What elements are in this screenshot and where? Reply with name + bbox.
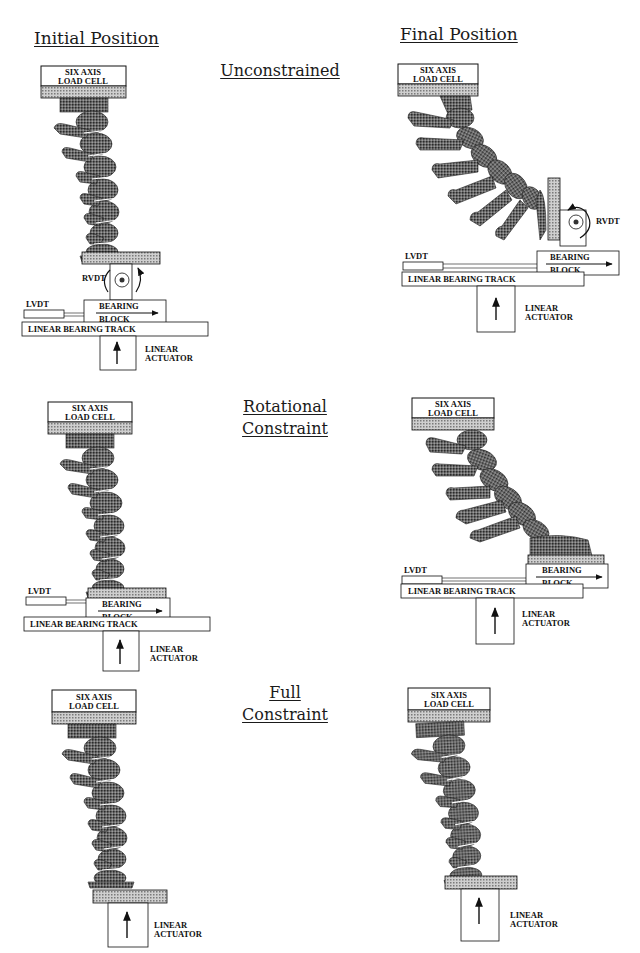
rotational-initial-diagram: SIX AXIS LOAD CELL LVDT BEARING BLOCK LI… xyxy=(24,402,210,671)
svg-text:LOAD CELL: LOAD CELL xyxy=(413,74,463,84)
full-initial-diagram: SIX AXIS LOAD CELL LINEAR ACTUATOR xyxy=(52,690,203,947)
svg-text:BEARING: BEARING xyxy=(99,301,139,311)
svg-text:LINEAR BEARING TRACK: LINEAR BEARING TRACK xyxy=(408,586,516,596)
svg-text:LOAD CELL: LOAD CELL xyxy=(65,412,115,422)
svg-text:LINEAR BEARING TRACK: LINEAR BEARING TRACK xyxy=(408,274,516,284)
svg-text:LVDT: LVDT xyxy=(28,586,51,596)
svg-text:ACTUATOR: ACTUATOR xyxy=(525,312,574,322)
svg-text:ACTUATOR: ACTUATOR xyxy=(154,929,203,939)
svg-text:BEARING: BEARING xyxy=(102,599,142,609)
lvdt-box xyxy=(24,310,64,318)
svg-text:LOAD CELL: LOAD CELL xyxy=(58,76,108,86)
svg-text:LINEAR BEARING TRACK: LINEAR BEARING TRACK xyxy=(30,619,138,629)
svg-text:LOAD CELL: LOAD CELL xyxy=(69,701,119,711)
svg-text:LVDT: LVDT xyxy=(405,251,428,261)
full-final-diagram: SIX AXIS LOAD CELL LINEAR ACTUATOR xyxy=(408,688,559,941)
svg-text:LINEAR BEARING TRACK: LINEAR BEARING TRACK xyxy=(28,324,136,334)
svg-text:LVDT: LVDT xyxy=(26,299,49,309)
svg-text:ACTUATOR: ACTUATOR xyxy=(522,618,571,628)
svg-text:ACTUATOR: ACTUATOR xyxy=(510,919,559,929)
diagram-canvas: SIX AXIS LOAD CELL RVDT LVDT BEARING BLO… xyxy=(0,0,640,953)
svg-text:ACTUATOR: ACTUATOR xyxy=(145,353,194,363)
base-plate xyxy=(82,252,160,264)
svg-text:BEARING: BEARING xyxy=(550,252,590,262)
svg-text:LOAD CELL: LOAD CELL xyxy=(428,408,478,418)
svg-text:LOAD CELL: LOAD CELL xyxy=(424,699,474,709)
rotational-final-diagram: SIX AXIS LOAD CELL LVDT BEARING BLOCK LI… xyxy=(401,398,608,644)
svg-text:RVDT: RVDT xyxy=(596,216,620,226)
svg-text:LVDT: LVDT xyxy=(404,565,427,575)
svg-text:ACTUATOR: ACTUATOR xyxy=(150,653,199,663)
svg-text:RVDT: RVDT xyxy=(82,273,106,283)
unconstrained-initial-diagram: SIX AXIS LOAD CELL RVDT LVDT BEARING BLO… xyxy=(22,66,208,370)
svg-text:BEARING: BEARING xyxy=(542,565,582,575)
linear-actuator xyxy=(100,336,136,370)
unconstrained-final-diagram: SIX AXIS LOAD CELL RVDT LVDT xyxy=(398,64,620,332)
